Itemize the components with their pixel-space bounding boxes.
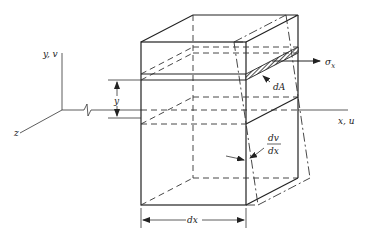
- axis-break-icon: [84, 104, 91, 116]
- hidden-bottom-left: [141, 178, 193, 205]
- rotation-numerator: dv: [268, 133, 279, 143]
- rotation-arrow-right: [250, 148, 264, 158]
- beam-element-diagram: σx dA y dv dx dx y, v x, u z: [0, 0, 370, 240]
- rotation-arrow-left: [226, 156, 244, 160]
- strip-hidden-top-left: [141, 47, 193, 74]
- rotation-denominator: dx: [268, 146, 279, 156]
- z-axis-label: z: [13, 128, 19, 138]
- front-face: [141, 42, 246, 205]
- dx-label: dx: [187, 215, 198, 225]
- strip-hidden-bottom-left: [141, 53, 193, 80]
- z-axis: [20, 110, 62, 133]
- length-dimension: dx: [141, 208, 246, 228]
- area-element-da: [246, 47, 298, 80]
- da-leader: [263, 76, 270, 82]
- coordinate-axes: [20, 53, 348, 133]
- neutral-plane-left: [141, 97, 193, 124]
- top-face: [141, 15, 298, 42]
- stress-label: σx: [325, 57, 335, 70]
- neutral-plane-right: [246, 97, 298, 124]
- y-axis-label: y, v: [42, 49, 58, 59]
- height-dimension: y: [108, 80, 141, 118]
- bottom-right-edge: [246, 178, 298, 205]
- y-dimension-label: y: [113, 96, 120, 106]
- da-label: dA: [273, 82, 286, 92]
- x-axis-label: x, u: [338, 116, 355, 126]
